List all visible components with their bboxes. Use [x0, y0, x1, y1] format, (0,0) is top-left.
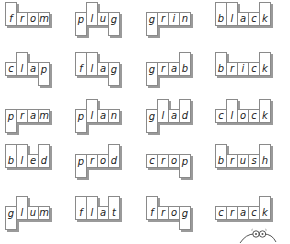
letter-cell: t: [108, 196, 120, 220]
letter: n: [111, 110, 117, 122]
letter: d: [111, 155, 117, 167]
letter-cell: n: [179, 12, 191, 26]
letter: g: [149, 14, 155, 26]
word-box-clock: clock: [215, 99, 271, 123]
letter-cell: p: [179, 154, 191, 178]
letter: c: [251, 13, 257, 25]
letter: i: [173, 13, 176, 25]
letter: a: [171, 110, 177, 122]
letter-cell: d: [108, 144, 120, 168]
letter: a: [30, 110, 36, 122]
letter: u: [100, 13, 106, 25]
letter-cell: g: [179, 206, 191, 230]
word-box-plug: plug: [75, 2, 120, 36]
letter: u: [30, 207, 36, 219]
caterpillar-icon: [238, 228, 278, 244]
letter: l: [231, 13, 234, 25]
letter-cell: m: [38, 12, 50, 26]
letter: l: [91, 13, 94, 25]
word-box-frog: frog: [146, 196, 191, 230]
letter: g: [8, 208, 14, 220]
letter: r: [20, 13, 24, 25]
letter: l: [162, 110, 165, 122]
letter: b: [218, 63, 224, 75]
letter-cell: n: [108, 109, 120, 123]
letter: a: [30, 63, 36, 75]
letter: r: [230, 207, 234, 219]
letter: c: [251, 110, 257, 122]
word-box-glad: glad: [146, 99, 191, 133]
letter: p: [78, 14, 84, 26]
word-box-prod: prod: [75, 144, 120, 178]
letter: t: [112, 207, 116, 219]
letter-cell: k: [259, 52, 271, 76]
letter: l: [91, 63, 94, 75]
letter: a: [100, 110, 106, 122]
letter: o: [100, 155, 106, 167]
word-box-glum: glum: [5, 196, 50, 230]
letter: d: [182, 110, 188, 122]
letter: a: [240, 13, 246, 25]
letter: m: [39, 13, 49, 25]
word-box-brick: brick: [215, 52, 271, 76]
letter-cell: k: [259, 2, 271, 26]
word-box-crack: crack: [215, 196, 271, 220]
word-box-flat: flat: [75, 196, 120, 220]
letter: l: [21, 207, 24, 219]
letter: l: [21, 155, 24, 167]
letter: b: [8, 155, 14, 167]
letter: f: [79, 207, 83, 219]
letter: b: [182, 63, 188, 75]
letter: c: [149, 155, 155, 167]
letter: a: [171, 63, 177, 75]
word-box-grab: grab: [146, 52, 191, 86]
letter: m: [39, 207, 49, 219]
letter: k: [262, 207, 268, 219]
letter: n: [182, 13, 188, 25]
letter: i: [242, 63, 245, 75]
letter-cell: d: [179, 99, 191, 123]
letter: m: [39, 110, 49, 122]
letter: a: [100, 63, 106, 75]
word-box-from: from: [5, 2, 50, 26]
word-box-brush: brush: [215, 144, 271, 168]
letter-cell: g: [108, 12, 120, 36]
letter: l: [21, 63, 24, 75]
letter: f: [9, 13, 13, 25]
word-box-grin: grin: [146, 2, 191, 36]
letter: r: [20, 110, 24, 122]
letter: o: [30, 13, 36, 25]
letter-cell: m: [38, 109, 50, 123]
letter: p: [78, 111, 84, 123]
letter: o: [171, 155, 177, 167]
letter-cell: d: [38, 144, 50, 168]
letter: h: [262, 155, 268, 167]
letter: l: [91, 110, 94, 122]
letter-cell: k: [259, 196, 271, 220]
letter: g: [182, 208, 188, 220]
letter: a: [240, 207, 246, 219]
word-box-bled: bled: [5, 144, 50, 168]
letter: f: [79, 63, 83, 75]
letter: l: [91, 207, 94, 219]
word-box-flag: flag: [75, 52, 120, 86]
letter: f: [150, 207, 154, 219]
letter: r: [161, 155, 165, 167]
letter: r: [161, 13, 165, 25]
letter-cell: h: [259, 144, 271, 168]
letter: g: [149, 64, 155, 76]
letter-cell: k: [259, 99, 271, 123]
letter: b: [218, 13, 224, 25]
letter: c: [8, 63, 14, 75]
letter: g: [149, 111, 155, 123]
letter: r: [230, 155, 234, 167]
letter: p: [41, 64, 47, 76]
letter: p: [8, 111, 14, 123]
letter: g: [111, 14, 117, 26]
letter: k: [262, 110, 268, 122]
letter: o: [171, 207, 177, 219]
letter-cell: p: [38, 62, 50, 86]
letter: r: [230, 63, 234, 75]
letter: r: [161, 63, 165, 75]
letter-cell: b: [179, 52, 191, 76]
